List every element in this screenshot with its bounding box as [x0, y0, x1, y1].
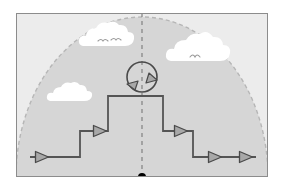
diagram-stage — [0, 0, 284, 190]
diagram-svg — [0, 0, 284, 190]
